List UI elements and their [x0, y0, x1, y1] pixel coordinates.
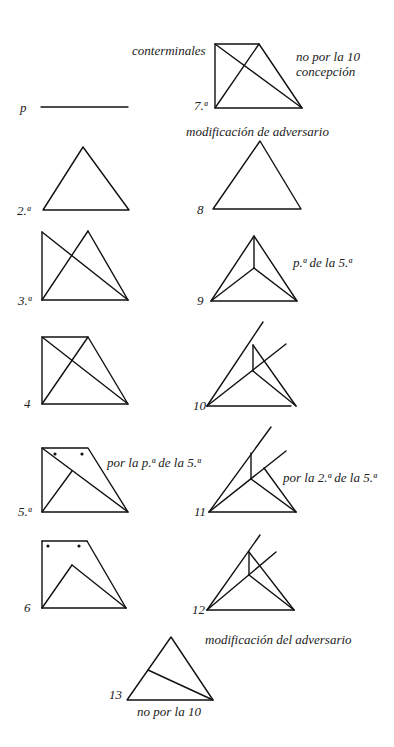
label-fig13: 13: [109, 687, 123, 702]
figure-4: [42, 337, 128, 404]
label-fig9: 9: [197, 293, 204, 308]
annotation-fig13-sub: no por la 10: [137, 704, 201, 719]
figure-3: [42, 231, 128, 300]
label-fig7: 7.ª: [194, 98, 209, 113]
annotation-fig9: p.ª de la 5.ª: [292, 255, 353, 270]
dot-marker: [53, 452, 56, 455]
label-fig4: 4: [24, 396, 31, 411]
label-fig11: 11: [194, 504, 206, 519]
label-fig2: 2.ª: [17, 203, 32, 218]
label-fig5: 5.ª: [18, 504, 33, 519]
dot-marker: [77, 544, 80, 547]
figure-9: [211, 236, 297, 301]
figure-7: [215, 44, 302, 108]
annotation-fig13: modificación del adversario: [205, 632, 352, 647]
annotation-fig7-line2: concepción: [296, 64, 355, 79]
figure-12: [207, 535, 294, 610]
label-fig3: 3.ª: [17, 293, 33, 308]
annotation-conterminales: conterminales: [132, 43, 206, 58]
annotation-fig7-line1: no por la 10: [296, 49, 360, 64]
label-fig12: 12: [192, 602, 206, 617]
figure-6: [42, 541, 126, 608]
figure-13: [127, 637, 213, 700]
geometric-figures-diagram: p conterminales no por la 10 concepción …: [0, 0, 394, 747]
annotation-fig5: por la p.ª de la 5.ª: [106, 455, 202, 470]
label-fig8: 8: [197, 202, 204, 217]
annotation-fig8: modificación de adversario: [186, 124, 329, 139]
figure-8: [213, 141, 301, 209]
figure-2: [43, 147, 129, 210]
annotation-fig11: por la 2.ª de la 5.ª: [282, 470, 378, 485]
dot-marker: [80, 452, 83, 455]
label-fig10: 10: [193, 398, 207, 413]
dot-marker: [46, 544, 49, 547]
label-p: p: [19, 100, 27, 115]
label-fig6: 6: [24, 600, 31, 615]
figure-10: [207, 322, 296, 406]
